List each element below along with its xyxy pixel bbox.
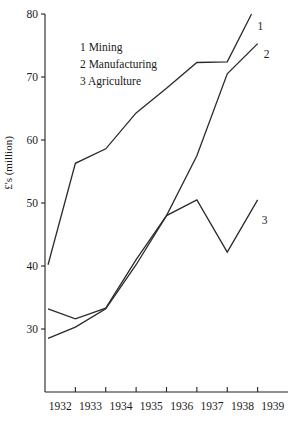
- x-tick-label: 1937: [201, 400, 224, 412]
- x-tick-label: 1935: [140, 400, 163, 412]
- x-axis-tick-labels: 19321933193419351936193719381939: [49, 400, 285, 412]
- x-axis-ticks: [75, 387, 257, 392]
- y-axis-title: £'s (million): [2, 136, 15, 190]
- y-axis-tick-labels: 304050607080: [27, 8, 39, 335]
- x-tick-label: 1933: [79, 400, 102, 412]
- chart-legend: 1 Mining2 Manufacturing3 Agriculture: [80, 41, 157, 88]
- series-end-label-agriculture: 3: [262, 214, 268, 226]
- series-line-mining: [48, 14, 252, 265]
- x-tick-label: 1939: [261, 400, 284, 412]
- series-end-label-mining: 1: [258, 20, 264, 32]
- legend-entry-3: 3 Agriculture: [80, 75, 141, 88]
- y-axis-group: 304050607080 £'s (million): [2, 8, 45, 392]
- y-tick-label: 60: [27, 134, 39, 146]
- y-axis-ticks: [41, 14, 45, 329]
- series-end-labels: 123: [258, 20, 270, 226]
- x-axis-group: 19321933193419351936193719381939: [45, 387, 288, 412]
- chart-container: 304050607080 £'s (million) 1932193319341…: [0, 0, 303, 422]
- y-tick-label: 50: [27, 197, 39, 209]
- y-tick-label: 40: [27, 260, 39, 272]
- series-end-label-manufacturing: 2: [264, 48, 270, 60]
- y-tick-label: 70: [27, 71, 39, 83]
- y-tick-label: 30: [27, 323, 39, 335]
- line-chart: 304050607080 £'s (million) 1932193319341…: [0, 0, 303, 422]
- x-tick-label: 1934: [109, 400, 132, 412]
- legend-entry-1: 1 Mining: [80, 41, 123, 54]
- legend-entry-2: 2 Manufacturing: [80, 58, 157, 71]
- x-tick-label: 1936: [170, 400, 193, 412]
- x-tick-label: 1938: [231, 400, 254, 412]
- y-tick-label: 80: [27, 8, 39, 20]
- x-tick-label: 1932: [49, 400, 72, 412]
